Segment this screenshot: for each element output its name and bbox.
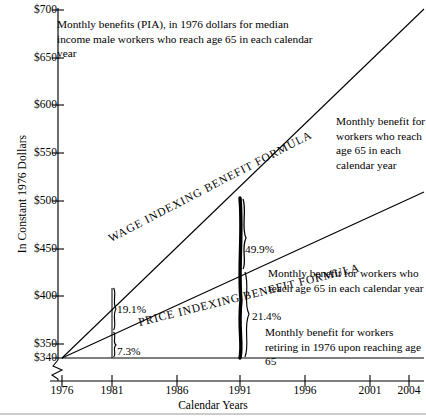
y-tick-label-550: $550: [11, 147, 57, 159]
percent-label-1981-19-1: 19.1%: [117, 303, 146, 315]
y-tick-label-700: $700: [11, 4, 57, 16]
y-tick-labels: $700 $650 $600 $550 $500 $450 $400 $350 …: [0, 0, 57, 419]
brace-1991-21-4: [245, 272, 249, 357]
brace-1981-19-1: [114, 288, 117, 330]
x-tick-label-1981: 1981: [82, 384, 142, 396]
x-axis-title: Calendar Years: [0, 399, 426, 411]
percent-label-1991-21-4: 21.4%: [252, 310, 281, 322]
y-tick-label-650: $650: [11, 52, 57, 64]
chart-canvas: In Constant 1976 Dollars $700 $650 $600 …: [0, 0, 426, 419]
y-tick-label-450: $450: [11, 243, 57, 255]
x-tick-label-2004: 2004: [379, 384, 426, 396]
brace-1981-7-3: [114, 332, 117, 357]
x-tick-label-1996: 1996: [275, 384, 335, 396]
y-tick-label-400: $400: [11, 290, 57, 302]
y-tick-label-350: $350: [11, 338, 57, 350]
percent-label-1991-49-9: 49.9%: [245, 243, 274, 255]
connector-1991-thick: [240, 198, 241, 358]
y-tick-label-600: $600: [11, 99, 57, 111]
annotation-baseline-note: Monthly benefit for workers retiring in …: [265, 325, 426, 369]
annotation-wage-line-note: Monthly benefit for workers who reach ag…: [336, 114, 426, 172]
x-tick-label-1986: 1986: [147, 384, 207, 396]
y-tick-label-500: $500: [11, 195, 57, 207]
y-tick-label-340: $340: [11, 352, 57, 364]
chart-title-note: Monthly benefits (PIA), in 1976 dollars …: [57, 17, 317, 61]
percent-label-1981-7-3: 7.3%: [117, 345, 141, 357]
brace-1991-49-9: [243, 199, 246, 269]
x-tick-label-1991: 1991: [210, 384, 270, 396]
